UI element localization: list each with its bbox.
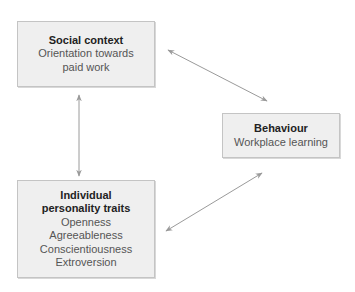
trait-item: Extroversion [55, 256, 116, 270]
arrow-personality-behaviour [166, 173, 262, 231]
social-context-line: paid work [62, 61, 109, 75]
personality-title: Individual [60, 189, 111, 203]
social-context-title: Social context [49, 34, 124, 48]
trait-item: Openness [61, 216, 111, 230]
behaviour-box: Behaviour Workplace learning [222, 113, 340, 158]
behaviour-line: Workplace learning [234, 136, 328, 150]
personality-traits-box: Individual personality traits Openness A… [17, 180, 155, 278]
social-context-line: Orientation towards [38, 47, 133, 61]
personality-title: personality traits [42, 202, 131, 216]
social-context-box: Social context Orientation towards paid … [17, 21, 155, 87]
arrow-social-behaviour [168, 50, 267, 101]
behaviour-title: Behaviour [254, 122, 308, 136]
trait-item: Agreeableness [49, 229, 122, 243]
trait-item: Conscientiousness [40, 243, 132, 257]
